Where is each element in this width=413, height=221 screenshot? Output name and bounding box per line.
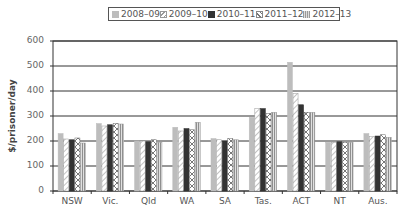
bar-Vic.-2012–13	[119, 124, 124, 191]
x-tick: SA	[206, 196, 244, 206]
bar-Tas.-2010–11	[260, 109, 265, 192]
bar-ACT-2011–12	[304, 112, 309, 191]
bar-WA-2009–10	[178, 131, 183, 191]
bar-Qld-2008–09	[135, 141, 140, 191]
bar-SA-2012–13	[233, 140, 238, 191]
x-tick: Qld	[130, 196, 168, 206]
bar-Aus.-2011–12	[381, 135, 386, 191]
bar-ACT-2008–09	[287, 62, 292, 191]
bar-WA-2012–13	[195, 122, 200, 191]
bar-Vic.-2011–12	[113, 124, 118, 192]
bar-NT-2011–12	[342, 142, 347, 191]
bar-Aus.-2008–09	[364, 134, 369, 192]
bar-NT-2008–09	[326, 142, 331, 191]
bar-NT-2012–13	[348, 142, 353, 191]
bar-NSW-2008–09	[58, 134, 63, 192]
bar-Qld-2011–12	[151, 140, 156, 191]
bar-SA-2011–12	[228, 139, 233, 192]
bar-SA-2010–11	[222, 141, 227, 191]
bar-NSW-2012–13	[81, 143, 86, 191]
x-tick: Aus.	[359, 196, 397, 206]
bar-Qld-2009–10	[140, 141, 145, 191]
bar-NSW-2010–11	[69, 140, 74, 191]
bar-WA-2010–11	[184, 129, 189, 192]
x-tick: WA	[168, 196, 206, 206]
x-tick: Tas.	[244, 196, 282, 206]
bar-ACT-2012–13	[310, 112, 315, 191]
bar-Aus.-2010–11	[375, 136, 380, 191]
bar-NSW-2011–12	[75, 138, 80, 191]
bar-NT-2010–11	[337, 142, 342, 191]
bar-Qld-2012–13	[157, 142, 162, 191]
bar-Tas.-2009–10	[255, 109, 260, 192]
x-tick: NSW	[53, 196, 91, 206]
bar-Vic.-2008–09	[96, 124, 101, 192]
bar-NT-2009–10	[331, 142, 336, 191]
bar-Aus.-2012–13	[386, 137, 391, 191]
bar-Aus.-2009–10	[369, 137, 374, 192]
bar-ACT-2010–11	[299, 105, 304, 191]
bar-Tas.-2008–09	[249, 117, 254, 191]
plot-area	[0, 0, 413, 221]
bar-Tas.-2012–13	[272, 112, 277, 191]
bar-WA-2011–12	[190, 130, 195, 191]
bar-SA-2008–09	[211, 139, 216, 192]
bar-Qld-2010–11	[146, 142, 151, 191]
bar-NSW-2009–10	[64, 139, 69, 191]
x-tick: ACT	[282, 196, 320, 206]
bar-WA-2008–09	[173, 127, 178, 191]
x-tick: Vic.	[91, 196, 129, 206]
x-tick: NT	[321, 196, 359, 206]
bar-Tas.-2011–12	[266, 114, 271, 192]
bar-SA-2009–10	[217, 140, 222, 191]
bar-Vic.-2010–11	[108, 125, 113, 191]
bar-Vic.-2009–10	[102, 126, 107, 191]
bar-ACT-2009–10	[293, 94, 298, 192]
